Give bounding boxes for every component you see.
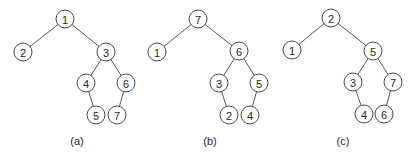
node-label: 1 [289,45,295,57]
node-label: 6 [381,109,387,121]
tree-node: 7 [189,10,207,28]
node-label: 4 [247,110,253,122]
tree-node: 5 [364,42,382,60]
tree-node: 6 [375,105,393,123]
tree-node: 6 [117,74,135,92]
tree-node: 3 [210,74,228,92]
tree-node: 2 [220,106,238,124]
tree-node: 3 [97,43,115,61]
tree-node: 1 [56,10,74,28]
node-label: 1 [62,14,68,26]
tree-node: 6 [230,42,248,60]
tree-node: 4 [241,106,259,124]
node-label: 6 [236,46,242,58]
tree-node: 4 [355,105,373,123]
tree-node: 2 [322,9,340,27]
tree-caption: (a) [70,135,83,147]
node-label: 5 [93,110,99,122]
tree-a: 1234657(a) [14,10,135,147]
node-label: 3 [350,77,356,89]
tree-node: 4 [77,74,95,92]
node-label: 1 [154,47,160,59]
tree-caption: (b) [203,135,216,147]
node-label: 3 [216,78,222,90]
tree-node: 7 [384,73,402,91]
node-label: 2 [328,13,334,25]
node-label: 3 [103,47,109,59]
tree-node: 2 [14,43,32,61]
node-label: 6 [123,78,129,90]
tree-node: 1 [283,41,301,59]
node-label: 5 [256,78,262,90]
tree-b: 7163524(b) [148,10,268,147]
tree-node: 5 [250,74,268,92]
node-label: 4 [83,78,89,90]
binary-trees-diagram: 1234657(a)7163524(b)2153746(c) [0,0,417,156]
tree-caption: (c) [337,135,350,147]
node-label: 2 [20,47,26,59]
tree-node: 5 [87,106,105,124]
node-label: 7 [195,14,201,26]
tree-node: 1 [148,43,166,61]
tree-node: 7 [108,106,126,124]
node-label: 7 [114,110,120,122]
node-label: 7 [390,77,396,89]
tree-node: 3 [344,73,362,91]
tree-c: 2153746(c) [283,9,402,147]
node-label: 4 [361,109,367,121]
node-label: 5 [370,46,376,58]
node-label: 2 [226,110,232,122]
